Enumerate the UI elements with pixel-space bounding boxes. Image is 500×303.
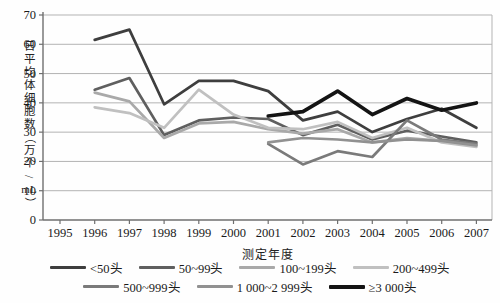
x-tick-label: 1999: [186, 226, 211, 240]
x-tick-label: 2002: [290, 226, 315, 240]
x-tick-label: 2005: [395, 226, 420, 240]
legend-label: 1 000~2 999头: [237, 277, 313, 296]
x-tick-label: 1996: [82, 226, 107, 240]
x-axis-ticks: 1995199619971998199920002001200220032004…: [48, 220, 489, 240]
x-tick-label: 2007: [464, 226, 489, 240]
x-tick-label: 1995: [48, 226, 73, 240]
legend-label: ≥3 000头: [369, 277, 417, 296]
series-line-2: [95, 93, 477, 146]
x-tick-label: 1998: [152, 226, 177, 240]
plot-area: 0102030405060701995199619971998199920002…: [0, 0, 500, 255]
legend-label: 200~499头: [393, 258, 450, 277]
legend-item: 200~499头: [353, 258, 450, 277]
x-tick-label: 2000: [221, 226, 246, 240]
legend-label: 50~99头: [179, 258, 224, 277]
y-tick-label: 40: [24, 96, 37, 110]
y-tick-label: 20: [24, 154, 37, 168]
legend-line-swatch: [329, 285, 365, 289]
legend-line-swatch: [197, 285, 233, 288]
y-tick-label: 10: [24, 184, 37, 198]
legend-line-swatch: [50, 266, 86, 269]
y-tick-label: 60: [24, 37, 37, 51]
legend-item: 1 000~2 999头: [197, 277, 313, 296]
legend-item: 500~999头: [83, 277, 180, 296]
x-tick-label: 2004: [360, 226, 386, 240]
y-axis-ticks: 010203040506070: [24, 8, 44, 227]
y-tick-label: 70: [24, 8, 37, 22]
x-tick-label: 2006: [429, 226, 454, 240]
y-tick-label: 30: [24, 125, 37, 139]
y-tick-label: 50: [24, 67, 37, 81]
x-tick-label: 2003: [325, 226, 350, 240]
legend-label: 500~999头: [123, 277, 180, 296]
x-tick-label: 1997: [117, 226, 142, 240]
legend-line-swatch: [353, 266, 389, 269]
legend-line-swatch: [139, 266, 175, 269]
legend-item: 50~99头: [139, 258, 224, 277]
x-tick-label: 2001: [256, 226, 281, 240]
legend-line-swatch: [83, 285, 119, 288]
legend-item: <50头: [50, 258, 123, 277]
legend-line-swatch: [239, 266, 275, 269]
legend-row-2: 500~999头1 000~2 999头≥3 000头: [0, 277, 500, 296]
legend-label: 100~199头: [279, 258, 336, 277]
series-line-6: [268, 91, 476, 116]
legend-item: ≥3 000头: [329, 277, 417, 296]
chart-figure: 日平均体细胞数（万个/mL） 0102030405060701995199619…: [0, 0, 500, 303]
y-tick-label: 0: [30, 213, 36, 227]
legend-item: 100~199头: [239, 258, 336, 277]
legend-label: <50头: [90, 258, 123, 277]
legend-row-1: <50头50~99头100~199头200~499头: [0, 258, 500, 277]
